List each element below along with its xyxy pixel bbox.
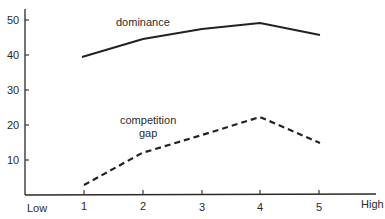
y-tick-label: 50 [7,14,19,26]
y-tick-label: 20 [7,119,19,131]
dominance-label: dominance [116,16,170,28]
x-low-label: Low [27,202,47,214]
y-tick-label: 40 [7,49,19,61]
competition-gap-label-line2: gap [139,127,157,139]
y-tick-label: 30 [7,84,19,96]
y-tick-labels: 50 40 30 20 10 [7,14,19,166]
line-chart: 50 40 30 20 10 Low 1 2 3 4 5 High domina… [0,0,385,219]
x-tick-labels: Low 1 2 3 4 5 High [27,198,384,214]
x-tick-label: 3 [199,201,205,213]
competition-gap-label-line1: competition [120,114,176,126]
x-tick-label: 2 [140,200,146,212]
competition-gap-line [84,117,320,185]
y-tick-label: 10 [7,154,19,166]
x-ticks [84,190,319,194]
dominance-line [82,23,320,57]
x-axis [25,194,376,195]
x-tick-label: 5 [316,201,322,213]
x-tick-label: 4 [257,201,263,213]
x-tick-label: 1 [81,200,87,212]
x-high-label: High [361,198,384,210]
